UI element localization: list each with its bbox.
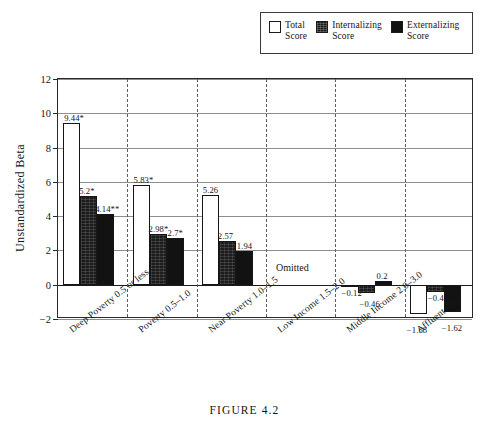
bar-value-label: 1.94 [237, 241, 252, 251]
legend-label: Total Score [285, 20, 307, 42]
y-axis-tick-label: 4 [46, 211, 58, 222]
gridline [58, 182, 472, 183]
group-divider [197, 79, 198, 317]
gridline [58, 148, 472, 149]
bar-externalizing[interactable] [167, 238, 184, 284]
white-square-icon [269, 21, 281, 33]
bar-value-label: 5.26 [203, 185, 218, 195]
legend-label: Internalizing Score [332, 20, 382, 42]
bar-value-label: 2.7* [168, 228, 183, 238]
bar-internalizing[interactable] [219, 241, 236, 285]
omitted-annotation: Omitted [276, 262, 309, 273]
legend-item-externalizing-score[interactable]: Externalizing Score [391, 20, 459, 42]
y-axis-tick-label: −2 [40, 314, 58, 325]
bar-internalizing[interactable] [358, 285, 375, 293]
legend-item-total-score[interactable]: Total Score [269, 20, 307, 42]
bar-value-label: −1.62 [442, 323, 462, 333]
bar-value-label: 5.83* [134, 175, 154, 185]
dark-textured-square-icon [316, 21, 328, 33]
bar-value-label: 2.57 [218, 231, 233, 241]
figure-container: Total ScoreInternalizing ScoreExternaliz… [0, 0, 489, 432]
gridline [58, 79, 472, 80]
gridline [58, 113, 472, 114]
legend-label: Externalizing Score [407, 20, 459, 42]
bar-value-label: 4.14** [95, 204, 119, 214]
gridline [58, 216, 472, 217]
bar-value-label: 5.2* [79, 186, 94, 196]
bar-externalizing[interactable] [375, 281, 392, 284]
bar-internalizing[interactable] [427, 285, 444, 292]
y-axis-tick-label: 6 [46, 176, 58, 187]
legend-item-internalizing-score[interactable]: Internalizing Score [316, 20, 382, 42]
bar-internalizing[interactable] [150, 234, 167, 285]
y-axis-tick-label: 2 [46, 245, 58, 256]
gridline [58, 319, 472, 320]
gridline [58, 250, 472, 251]
bar-externalizing[interactable] [236, 251, 253, 284]
y-axis-tick-label: 0 [46, 279, 58, 290]
chart-legend: Total ScoreInternalizing ScoreExternaliz… [260, 12, 473, 54]
y-axis-tick-label: 12 [41, 74, 59, 85]
y-axis-tick-label: 8 [46, 142, 58, 153]
bar-total[interactable] [410, 285, 427, 314]
bar-value-label: 2.98* [149, 224, 169, 234]
bar-value-label: 0.2 [377, 271, 388, 281]
bar-value-label: 9.44* [64, 113, 84, 123]
bar-total[interactable] [63, 123, 80, 285]
bar-total[interactable] [202, 195, 219, 285]
figure-caption: FIGURE 4.2 [0, 404, 489, 416]
bar-externalizing[interactable] [97, 214, 114, 285]
y-axis-tick-label: 10 [41, 108, 59, 119]
black-square-icon [391, 21, 403, 33]
